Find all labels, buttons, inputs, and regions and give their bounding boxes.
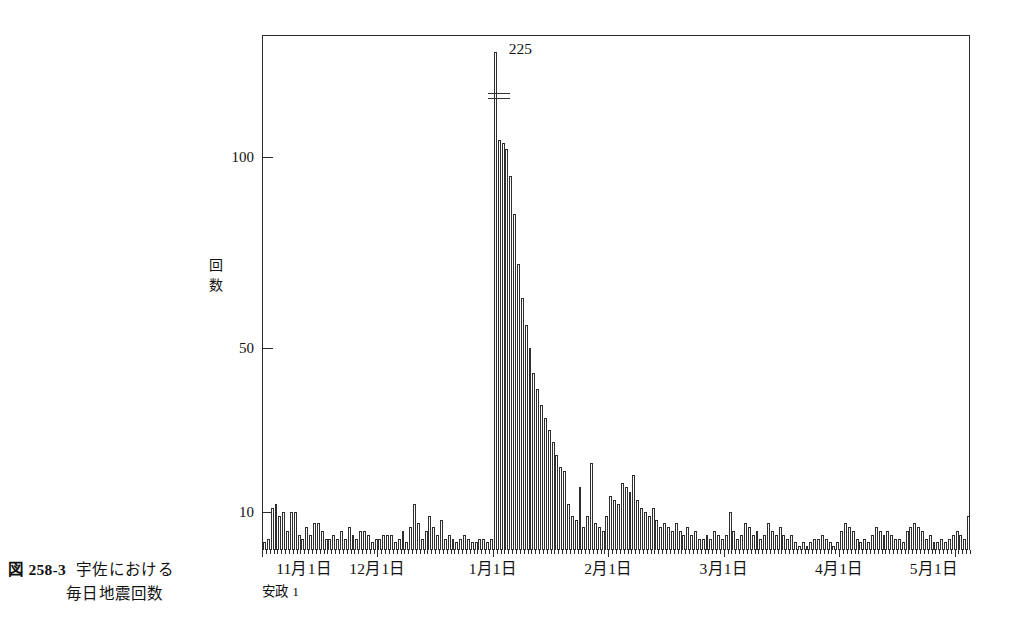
x-axis-minor-tick [497, 550, 498, 554]
bar [959, 535, 962, 550]
bar [355, 539, 358, 550]
x-axis-minor-tick [897, 550, 898, 554]
bar [398, 539, 401, 550]
y-axis-title-text: 回 数 [203, 256, 229, 297]
bar [817, 539, 820, 550]
x-axis-minor-tick [731, 550, 732, 554]
y-axis-title: 回 数 [203, 256, 229, 297]
x-axis-minor-tick [943, 550, 944, 554]
axis-break-marker [488, 92, 510, 101]
x-axis-minor-tick [331, 550, 332, 554]
bar [790, 535, 793, 550]
bar [459, 539, 462, 550]
x-axis-minor-tick [662, 550, 663, 554]
bar [663, 523, 666, 550]
x-axis-minor-tick [701, 550, 702, 554]
bar [352, 535, 355, 550]
bar [921, 531, 924, 550]
x-axis-minor-tick [885, 550, 886, 554]
x-axis-minor-tick [774, 550, 775, 554]
bar [271, 508, 274, 550]
x-axis-minor-tick [447, 550, 448, 554]
bar [536, 389, 539, 550]
bar [432, 527, 435, 550]
bar [752, 535, 755, 550]
x-axis-minor-tick [924, 550, 925, 554]
bar [486, 542, 489, 550]
x-axis-minor-tick [470, 550, 471, 554]
x-axis-minor-tick [351, 550, 352, 554]
x-axis-minor-tick [593, 550, 594, 554]
x-axis-minor-tick [708, 550, 709, 554]
bar [779, 527, 782, 550]
bar [555, 455, 558, 550]
bar [452, 539, 455, 550]
bar [890, 535, 893, 550]
x-axis-minor-tick [916, 550, 917, 554]
x-axis-minor-tick [270, 550, 271, 554]
axis-break-line-upper [488, 93, 510, 94]
x-axis-minor-tick [581, 550, 582, 554]
bar [759, 539, 762, 550]
x-axis-minor-tick [535, 550, 536, 554]
bar [732, 531, 735, 550]
x-axis-minor-tick [393, 550, 394, 554]
x-axis-minor-tick [300, 550, 301, 554]
x-axis-minor-tick [912, 550, 913, 554]
bar [667, 527, 670, 550]
bar [590, 463, 593, 550]
bar [309, 535, 312, 550]
bar [717, 535, 720, 550]
x-axis-minor-tick [639, 550, 640, 554]
bar [425, 531, 428, 550]
x-axis-minor-tick [420, 550, 421, 554]
figure-subtitle: 毎日地震回数 [66, 585, 164, 602]
bar [394, 542, 397, 550]
bar [856, 539, 859, 550]
x-axis-minor-tick [962, 550, 963, 554]
bar [740, 535, 743, 550]
x-axis-minor-tick [543, 550, 544, 554]
x-axis-minor-tick [624, 550, 625, 554]
x-axis-minor-tick [720, 550, 721, 554]
bar [840, 531, 843, 550]
x-axis-minor-tick [643, 550, 644, 554]
x-axis-minor-tick [951, 550, 952, 554]
x-axis-minor-tick [397, 550, 398, 554]
bar [863, 539, 866, 550]
bar [440, 520, 443, 550]
bar [344, 539, 347, 550]
x-axis-minor-tick [297, 550, 298, 554]
bar [513, 214, 516, 550]
x-axis-minor-tick [689, 550, 690, 554]
x-axis-minor-tick [343, 550, 344, 554]
bar [617, 504, 620, 550]
bar [267, 539, 270, 550]
bar [386, 535, 389, 550]
x-axis-minor-tick [466, 550, 467, 554]
bar [659, 527, 662, 550]
x-axis-minor-tick [901, 550, 902, 554]
bar [548, 430, 551, 550]
x-axis-minor-tick [928, 550, 929, 554]
x-axis-minor-tick [489, 550, 490, 554]
x-axis-minor-tick [385, 550, 386, 554]
x-axis-minor-tick [404, 550, 405, 554]
bar [906, 531, 909, 550]
bar [382, 535, 385, 550]
x-axis-minor-tick [431, 550, 432, 554]
x-axis-minor-tick [562, 550, 563, 554]
x-axis-minor-tick [882, 550, 883, 554]
bar [802, 542, 805, 550]
bar [913, 523, 916, 550]
bar [609, 496, 612, 550]
bar [702, 539, 705, 550]
x-axis-tick-label: 5月1日 [910, 556, 958, 578]
bar [648, 516, 651, 550]
x-axis-minor-tick [743, 550, 744, 554]
bar [867, 542, 870, 550]
bar [348, 527, 351, 550]
bar [682, 535, 685, 550]
bar [559, 467, 562, 550]
bar [490, 539, 493, 550]
